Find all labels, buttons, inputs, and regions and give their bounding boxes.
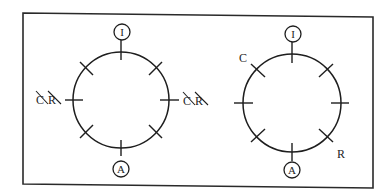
tick-sw xyxy=(251,129,265,142)
left-panel: I A C R C R xyxy=(36,24,208,177)
right-panel: I A C R xyxy=(234,26,349,178)
right-ring xyxy=(243,54,341,152)
right-struck-label: C R xyxy=(183,92,208,108)
tick-se xyxy=(319,129,333,142)
bottom-marker-label: A xyxy=(288,164,296,176)
top-marker-label: I xyxy=(291,28,295,40)
left-ring xyxy=(73,52,169,148)
top-marker-label: I xyxy=(120,26,124,38)
upper-left-label: C xyxy=(239,51,247,65)
tick-ne xyxy=(319,64,333,77)
left-ticks xyxy=(65,44,179,156)
lower-right-label: R xyxy=(337,147,345,161)
bottom-marker-label: A xyxy=(117,163,125,175)
right-ticks xyxy=(234,46,349,161)
tick-nw xyxy=(251,64,265,77)
diagram-canvas: I A C R C R xyxy=(0,0,389,193)
left-struck-label: C R xyxy=(36,91,61,107)
